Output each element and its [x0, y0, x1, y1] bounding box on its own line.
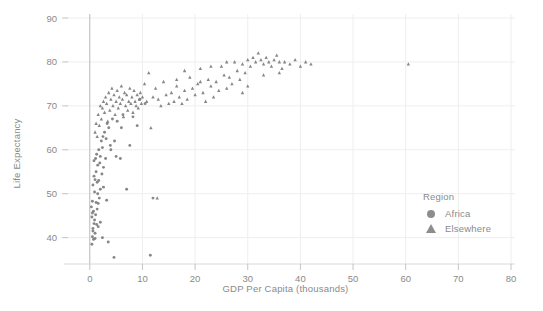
svg-text:10: 10: [137, 273, 148, 284]
svg-text:0: 0: [87, 273, 92, 284]
legend-title: Region: [423, 191, 491, 202]
tick-labels: 40506070809001020304050607080: [46, 13, 516, 285]
svg-text:80: 80: [506, 273, 517, 284]
svg-text:70: 70: [46, 100, 57, 111]
svg-text:80: 80: [46, 56, 57, 67]
circle-marker-icon: [423, 210, 439, 218]
svg-text:50: 50: [46, 188, 57, 199]
svg-text:70: 70: [453, 273, 464, 284]
svg-text:20: 20: [190, 273, 201, 284]
legend-label-elsewhere: Elsewhere: [445, 223, 491, 234]
svg-text:30: 30: [242, 273, 253, 284]
data-points: [90, 51, 410, 259]
svg-text:60: 60: [46, 144, 57, 155]
legend: Region Africa Elsewhere: [423, 191, 491, 236]
legend-item-africa[interactable]: Africa: [423, 206, 491, 221]
svg-text:40: 40: [46, 232, 57, 243]
legend-label-africa: Africa: [445, 208, 470, 219]
legend-item-elsewhere[interactable]: Elsewhere: [423, 221, 491, 236]
svg-text:90: 90: [46, 13, 57, 24]
svg-text:40: 40: [295, 273, 306, 284]
svg-text:60: 60: [400, 273, 411, 284]
scatter-plot: 40506070809001020304050607080: [0, 0, 543, 311]
svg-text:50: 50: [348, 273, 359, 284]
triangle-marker-icon: [423, 224, 439, 233]
